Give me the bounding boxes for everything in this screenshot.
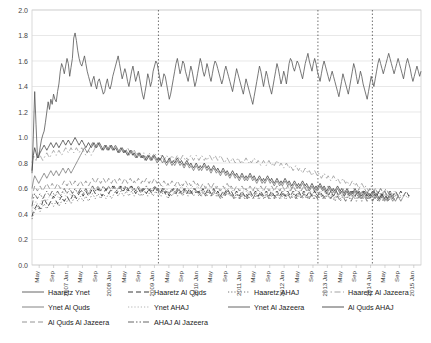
y-tick-label: 1.0 [18, 134, 28, 141]
legend-label: Haaretz Al Jazeera [348, 288, 409, 297]
x-tick-label: May [206, 270, 213, 283]
line-chart: 0.00.20.40.60.81.01.21.41.61.82.0MaySep2… [0, 0, 431, 343]
x-tick-label: May [163, 270, 170, 283]
legend-label: AHAJ Al Jazeera [154, 318, 208, 327]
y-tick-label: 0.0 [18, 262, 28, 269]
y-tick-label: 1.8 [18, 32, 28, 39]
y-tick-label: 1.4 [18, 83, 28, 90]
x-tick-label: Sep [221, 270, 228, 282]
legend-label: Al Quds AHAJ [348, 303, 394, 312]
y-tick-label: 0.4 [18, 211, 28, 218]
y-tick-label: 2.0 [18, 7, 28, 14]
x-tick-label: Sep [91, 270, 98, 282]
legend-label: Haaretz AHAJ [254, 288, 300, 297]
x-tick-label: Sep [48, 270, 55, 282]
y-tick-label: 1.6 [18, 58, 28, 65]
x-tick-label: Sep [307, 270, 314, 282]
legend-label: Haaretz Ynet [48, 288, 90, 297]
x-tick-label: Sep [264, 270, 271, 282]
x-tick-label: Sep [350, 270, 357, 282]
x-tick-label: May [379, 270, 386, 283]
chart-container: 0.00.20.40.60.81.01.21.41.61.82.0MaySep2… [0, 0, 431, 343]
x-tick-label: Sep [393, 270, 400, 282]
legend-label: Ynet Al Jazeera [254, 303, 304, 312]
x-tick-label: 2013 Jan [321, 270, 328, 296]
y-tick-label: 0.6 [18, 185, 28, 192]
legend-label: Ynet Al Quds [48, 303, 90, 312]
x-tick-label: May [293, 270, 300, 283]
legend-label: Al Quds Al Jazeera [48, 318, 109, 327]
y-tick-label: 0.8 [18, 160, 28, 167]
x-tick-label: Sep [134, 270, 141, 282]
x-tick-label: May [120, 270, 127, 283]
y-tick-label: 0.2 [18, 236, 28, 243]
x-tick-label: May [336, 270, 343, 283]
x-tick-label: Sep [177, 270, 184, 282]
x-tick-label: May [33, 270, 40, 283]
x-tick-label: May [76, 270, 83, 283]
legend-label: Haaretz Al Quds [154, 288, 207, 297]
y-tick-label: 1.2 [18, 109, 28, 116]
x-tick-label: 2015 Jan [408, 270, 415, 296]
legend: Haaretz YnetHaaretz Al QudsHaaretz AHAJH… [22, 288, 409, 327]
legend-label: Ynet AHAJ [154, 303, 189, 312]
x-tick-label: May [249, 270, 256, 283]
x-tick-label: 2008 Jan [105, 270, 112, 296]
